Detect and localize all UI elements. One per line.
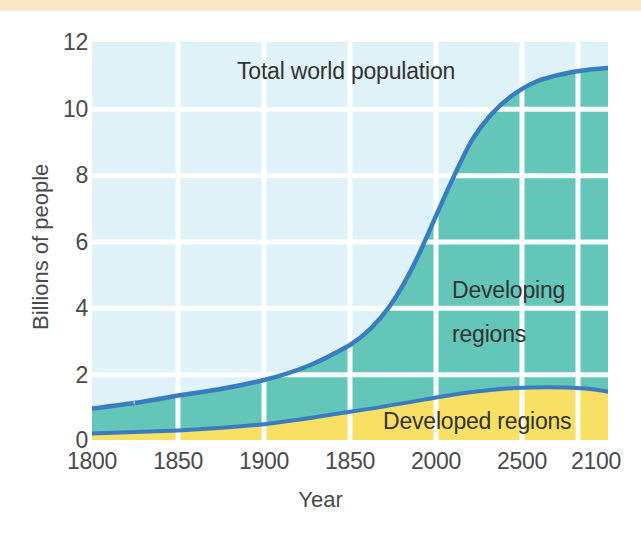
series-label-total-world-population: Total world population (237, 58, 455, 85)
y-tick-label-10: 10 (28, 96, 88, 123)
y-tick-label-2: 2 (28, 362, 88, 389)
x-tick-label-1850: 1850 (138, 448, 218, 475)
series-label-developed-regions: Developed regions (383, 408, 571, 435)
x-tick-label-2100: 2100 (556, 448, 636, 475)
x-tick-label-1800: 1800 (52, 448, 132, 475)
population-area-chart-figure: 12 10 8 6 4 2 0 1800 1850 1900 1850 2000… (0, 0, 641, 536)
x-tick-label-2500: 2500 (482, 448, 562, 475)
y-axis-title: Billions of people (28, 164, 54, 330)
x-tick-label-2000: 2000 (396, 448, 476, 475)
x-tick-label-1900: 1900 (224, 448, 304, 475)
x-axis-title: Year (0, 487, 641, 513)
series-label-developing-regions-line2: regions (452, 321, 526, 348)
x-tick-label-1850-b: 1850 (310, 448, 390, 475)
y-tick-label-12: 12 (28, 29, 88, 56)
series-label-developing-regions-line1: Developing (452, 277, 565, 304)
